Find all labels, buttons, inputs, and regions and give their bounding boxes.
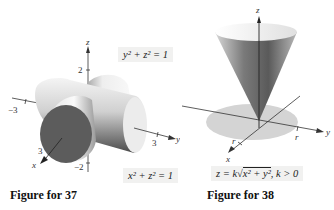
cone-plot: z y x r r xyxy=(180,0,334,170)
y-tick-3: 3 xyxy=(152,138,157,148)
equation-x2-z2: x² + z² = 1 xyxy=(123,168,178,183)
equation-y2-z2: y² + z² = 1 xyxy=(118,47,173,62)
y-axis-arrow-icon xyxy=(168,135,176,140)
equation-cone-radicand: x² + y² xyxy=(243,167,271,179)
figure-38: z y x r r z = k√x² + y², k > 0 Figure fo… xyxy=(180,0,334,210)
y-tick-r: r xyxy=(295,132,299,142)
x-tick-3: 3 xyxy=(38,146,43,156)
z-axis-label: z xyxy=(85,37,90,47)
equation-cone-lhs: z = k xyxy=(216,168,237,179)
cone-top xyxy=(215,23,297,41)
x-axis-label: x xyxy=(225,154,230,164)
z-axis-label: z xyxy=(255,5,260,15)
figure-37-caption: Figure for 37 xyxy=(10,188,77,203)
y-axis-arrow-icon xyxy=(316,128,324,133)
z-tick-neg2: −2 xyxy=(74,162,84,172)
z-axis-arrow-icon xyxy=(257,16,261,23)
equation-cone-condition: , k > 0 xyxy=(271,168,299,179)
x-axis-label: x xyxy=(31,160,36,170)
y-tick-neg3: −3 xyxy=(8,105,18,115)
sqrt-symbol: √ xyxy=(237,168,243,179)
equation-cone: z = k√x² + y², k > 0 xyxy=(211,166,303,181)
x-axis-arrow-icon xyxy=(228,146,235,153)
intersecting-cylinders-plot: z 2 −2 −3 3 y 3 x xyxy=(0,0,180,180)
cylinder-x-end xyxy=(40,105,92,163)
x-tick-r: r xyxy=(232,136,236,146)
z-tick-2: 2 xyxy=(78,65,83,75)
z-axis-arrow-icon xyxy=(86,46,90,53)
y-axis-label: y xyxy=(325,127,330,137)
figure-38-caption: Figure for 38 xyxy=(207,188,274,203)
cylinder-y-end xyxy=(123,97,147,153)
figure-37: z 2 −2 −3 3 y 3 x y² + z² = 1 x² + z² = … xyxy=(0,0,180,210)
